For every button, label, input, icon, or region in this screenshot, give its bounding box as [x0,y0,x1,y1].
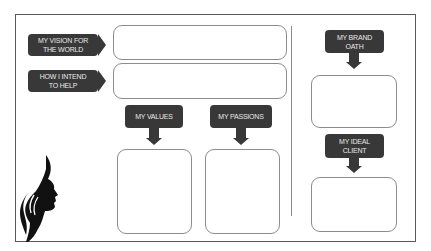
intend-label-line2: TO HELP [40,81,87,90]
passions-arrow-stem [236,128,246,138]
woman-profile-silhouette-icon [18,155,60,242]
brand-oath-label-line1: MY BRAND [337,33,372,42]
intend-arrow-icon [98,70,106,92]
brand-oath-label-line2: OATH [337,42,372,51]
brand-oath-field[interactable] [311,75,397,128]
vision-field[interactable] [113,25,287,60]
passions-arrow-icon [233,138,249,145]
values-arrow-icon [146,138,162,145]
intend-label-line1: HOW I INTEND [40,72,87,81]
passions-label-text: MY PASSIONS [218,112,263,121]
passions-label: MY PASSIONS [210,105,272,128]
brand-oath-label: MY BRAND OATH [325,30,384,53]
values-label: MY VALUES [125,105,183,128]
passions-field[interactable] [205,149,280,234]
vision-label-line1: MY VISION FOR [38,36,88,45]
vision-arrow-icon [98,34,106,56]
ideal-client-arrow-icon [346,166,362,173]
ideal-client-arrow-stem [349,158,359,166]
column-divider [291,26,292,216]
brand-oath-arrow-icon [346,62,362,69]
ideal-client-field[interactable] [311,177,397,232]
ideal-client-label: MY IDEAL CLIENT [325,134,384,158]
intend-field[interactable] [113,63,287,99]
ideal-client-label-line2: CLIENT [339,146,370,155]
values-label-text: MY VALUES [135,112,173,121]
brand-oath-arrow-stem [349,53,359,62]
values-field[interactable] [117,149,192,234]
intend-label: HOW I INTEND TO HELP [28,70,98,92]
ideal-client-label-line1: MY IDEAL [339,137,370,146]
values-arrow-stem [149,128,159,138]
vision-label: MY VISION FOR THE WORLD [28,34,98,56]
vision-label-line2: THE WORLD [38,45,88,54]
